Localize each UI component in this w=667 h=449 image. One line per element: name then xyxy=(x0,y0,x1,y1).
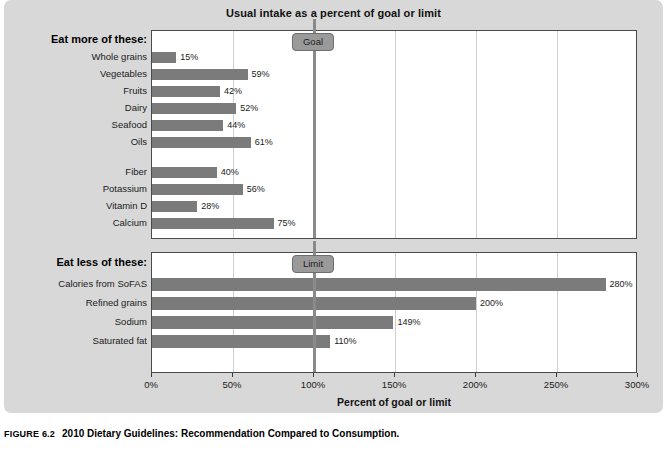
bar xyxy=(152,201,197,212)
x-tick-mark xyxy=(313,373,314,377)
group-heading-eat-more: Eat more of these: xyxy=(0,33,150,45)
bar-value-label: 52% xyxy=(240,103,258,114)
x-tick-mark xyxy=(556,373,557,377)
category-label: Fiber xyxy=(0,166,150,177)
x-tick-mark xyxy=(151,373,152,377)
bar xyxy=(152,184,243,195)
chart-title: Usual intake as a percent of goal or lim… xyxy=(0,7,667,19)
category-label: Calcium xyxy=(0,217,150,228)
bar xyxy=(152,278,606,291)
x-tick-label: 300% xyxy=(625,379,649,390)
gridline-250 xyxy=(557,253,558,372)
bar xyxy=(152,69,248,80)
bar xyxy=(152,316,393,329)
x-tick-mark xyxy=(232,373,233,377)
x-tick-label: 150% xyxy=(382,379,406,390)
bar-value-label: 15% xyxy=(180,52,198,63)
figure-number: FIGURE 6.2 xyxy=(4,429,55,439)
bar xyxy=(152,167,217,178)
x-axis-title: Percent of goal or limit xyxy=(151,396,637,408)
reference-line-goal xyxy=(313,19,316,238)
x-tick-label: 250% xyxy=(544,379,568,390)
bar-value-label: 280% xyxy=(610,278,633,291)
bar-value-label: 75% xyxy=(278,218,296,229)
bar xyxy=(152,120,223,131)
plot-panel-eat-more: 15%59%42%52%44%61%40%56%28%75% xyxy=(151,30,637,239)
bar-value-label: 200% xyxy=(480,297,503,310)
bar-value-label: 40% xyxy=(221,167,239,178)
bar-value-label: 42% xyxy=(224,86,242,97)
category-label: Refined grains xyxy=(0,297,150,308)
plot-panel-eat-less: 280%200%149%110% xyxy=(151,252,637,373)
category-label: Saturated fat xyxy=(0,335,150,346)
gridline-50 xyxy=(233,253,234,372)
gridline-200 xyxy=(476,253,477,372)
bar xyxy=(152,335,330,348)
reference-label-limit: Limit xyxy=(292,255,334,273)
category-label: Calories from SoFAS xyxy=(0,278,150,289)
bar xyxy=(152,103,236,114)
x-tick-label: 100% xyxy=(301,379,325,390)
category-label: Sodium xyxy=(0,316,150,327)
bar xyxy=(152,218,274,229)
x-tick-mark xyxy=(394,373,395,377)
x-tick-label: 50% xyxy=(222,379,241,390)
bar xyxy=(152,137,251,148)
category-label: Potassium xyxy=(0,183,150,194)
bar-value-label: 56% xyxy=(247,184,265,195)
category-label: Vegetables xyxy=(0,68,150,79)
category-label: Vitamin D xyxy=(0,200,150,211)
reference-label-goal: Goal xyxy=(292,33,334,51)
bar-value-label: 61% xyxy=(255,137,273,148)
gridline-250 xyxy=(557,31,558,238)
gridline-150 xyxy=(395,31,396,238)
x-tick-label: 200% xyxy=(463,379,487,390)
x-tick-label: 0% xyxy=(144,379,158,390)
x-tick-mark xyxy=(637,373,638,377)
category-label: Seafood xyxy=(0,119,150,130)
bar-value-label: 28% xyxy=(201,201,219,212)
bar-value-label: 59% xyxy=(252,69,270,80)
bar-value-label: 149% xyxy=(397,316,420,329)
bar-value-label: 44% xyxy=(227,120,245,131)
category-label: Dairy xyxy=(0,102,150,113)
figure-caption: FIGURE 6.22010 Dietary Guidelines: Recom… xyxy=(4,428,399,439)
category-label: Oils xyxy=(0,136,150,147)
x-tick-mark xyxy=(475,373,476,377)
group-heading-eat-less: Eat less of these: xyxy=(0,256,150,268)
bar-value-label: 110% xyxy=(334,335,356,348)
figure-caption-text: 2010 Dietary Guidelines: Recommendation … xyxy=(62,428,399,439)
gridline-50 xyxy=(233,31,234,238)
figure-container: Usual intake as a percent of goal or lim… xyxy=(0,0,667,449)
bar xyxy=(152,86,220,97)
gridline-200 xyxy=(476,31,477,238)
bar xyxy=(152,52,176,63)
category-label: Fruits xyxy=(0,85,150,96)
category-label: Whole grains xyxy=(0,51,150,62)
gridline-150 xyxy=(395,253,396,372)
